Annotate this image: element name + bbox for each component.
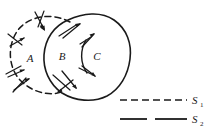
region-label-b: B — [59, 50, 66, 62]
arrow-s1-lower-left — [6, 66, 25, 77]
s2-path — [44, 14, 131, 100]
curve-s2-solid — [44, 14, 131, 100]
region-label-c: C — [93, 50, 101, 62]
arrow-s2-bottom-in — [57, 80, 73, 93]
arrow-s1-top — [35, 11, 45, 31]
legend-subscript-s1: 1 — [200, 101, 204, 109]
arrow-s2-top — [59, 23, 81, 38]
legend-item-s1: S 1 — [120, 94, 204, 109]
surfaces-diagram: A B C S 1 S 2 — [0, 0, 215, 135]
figure-container: A B C S 1 S 2 — [0, 0, 215, 135]
legend-label-s2: S — [192, 113, 198, 125]
arrow-s1-bottom-left — [13, 78, 30, 92]
region-label-a: A — [26, 52, 34, 64]
legend: S 1 S 2 — [120, 94, 204, 128]
arrow-bc-bottom — [79, 66, 96, 77]
legend-item-s2: S 2 — [120, 113, 204, 128]
legend-subscript-s2: 2 — [200, 120, 204, 128]
arrow-s1-left — [8, 34, 25, 46]
legend-label-s1: S — [192, 94, 198, 106]
arrow-bc-top — [80, 33, 95, 47]
